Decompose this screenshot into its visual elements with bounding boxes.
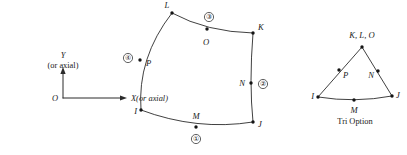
tri-label-J: J [396,90,401,100]
quad-element: L K J I O N M P ① ② ③ ④ [123,0,267,144]
tri-node-apex [360,45,363,48]
quad-label-M: M [191,111,200,121]
x-axis-arrowhead [120,95,127,100]
tri-node-N [376,69,379,72]
edge-number-text-3: ③ [206,12,212,21]
tri-node-P [337,68,340,71]
quad-edge-number-4: ④ [123,53,132,62]
tri-node-I [316,95,319,98]
quad-node-K [251,31,254,34]
quad-node-N [249,81,252,84]
quad-label-K: K [257,22,265,32]
tri-label-P: P [342,70,349,80]
tri-element: K, L, O I J M P N Tri Option [310,30,401,126]
quad-label-N: N [238,78,246,88]
figure-root: O Y (or axial) X(or axial) [0,0,407,155]
quad-label-J: J [258,119,263,129]
quad-label-P: P [145,58,152,68]
quad-label-O: O [203,37,209,47]
edge-number-text-2: ② [260,79,266,88]
quad-node-I [139,108,142,111]
axis-y-sublabel: (or axial) [48,61,79,70]
tri-label-I: I [310,91,315,101]
tri-label-N: N [367,70,375,80]
axis-x-label: X(or axial) [130,94,168,103]
edge-number-text-1: ① [193,134,199,143]
tri-option-caption: Tri Option [337,117,373,126]
quad-edge-top [172,13,253,33]
quad-node-O [205,27,208,30]
tri-label-apex: K, L, O [348,30,374,40]
quad-node-M [194,125,197,128]
quad-edge-number-2: ② [258,79,267,88]
axis-y-label: Y [61,51,67,60]
axis-origin-label: O [52,94,58,103]
quad-edge-number-1: ① [191,134,200,143]
edge-number-text-4: ④ [125,53,131,62]
quad-node-J [251,120,254,123]
tri-node-J [390,94,393,97]
quad-label-L: L [164,0,170,10]
quad-node-P [138,58,141,61]
quad-node-L [170,11,173,14]
quad-edge-number-3: ③ [204,12,213,21]
diagram-canvas: O Y (or axial) X(or axial) [0,0,407,155]
tri-node-M [352,98,355,101]
tri-edge-left [318,47,362,97]
quad-edge-right [251,33,253,122]
quad-label-I: I [133,106,138,116]
tri-label-M: M [349,105,358,115]
